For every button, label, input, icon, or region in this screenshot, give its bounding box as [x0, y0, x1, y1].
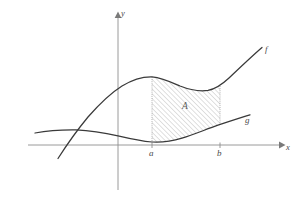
figure-svg	[0, 0, 297, 206]
y-axis-label: y	[121, 9, 125, 18]
y-axis-group	[115, 12, 122, 191]
tick-label-a: a	[149, 149, 154, 158]
region-label-a: A	[182, 102, 188, 112]
curve-label-g: g	[245, 116, 250, 125]
tick-label-b: b	[217, 149, 222, 158]
figure-canvas: x y f g a b A	[0, 0, 297, 206]
curve-label-f: f	[265, 45, 268, 54]
x-axis-label: x	[286, 143, 290, 152]
x-axis-arrow	[279, 142, 286, 149]
